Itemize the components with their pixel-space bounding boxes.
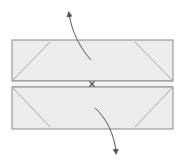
bottom-flap (12, 87, 173, 129)
top-flap (12, 40, 173, 81)
